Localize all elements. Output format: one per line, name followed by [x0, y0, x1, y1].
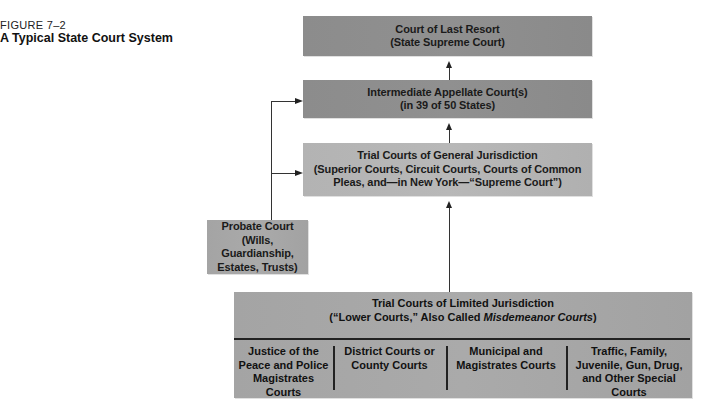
limited-subtitle: (“Lower Courts,” Also Called Misdemeanor… [234, 310, 692, 324]
general-title: Trial Courts of General Jurisdiction [357, 149, 537, 163]
column-line: Peace and Police [234, 359, 333, 373]
arrow-right-icon [295, 170, 303, 176]
column-line: and Other Special [566, 372, 692, 386]
probate-to-general-connector [271, 173, 297, 174]
arrow-up-icon [446, 201, 452, 208]
column-line: Justice of the [234, 345, 333, 359]
connector-limited-to-general [449, 206, 450, 292]
limited-jurisdiction-box: Trial Courts of Limited Jurisdiction (“L… [234, 292, 692, 398]
limited-columns: Justice of the Peace and Police Magistra… [234, 345, 692, 399]
limited-column-justice: Justice of the Peace and Police Magistra… [234, 345, 333, 399]
column-line: County Courts [333, 359, 446, 373]
court-of-last-resort-box: Court of Last Resort (State Supreme Cour… [303, 16, 592, 56]
column-line: Juvenile, Gun, Drug, [566, 359, 692, 373]
arrow-right-icon [295, 98, 303, 104]
column-line: Municipal and [446, 345, 566, 359]
arrow-up-icon [446, 61, 452, 68]
last-resort-subtitle: (State Supreme Court) [390, 36, 505, 50]
column-line: Traffic, Family, [566, 345, 692, 359]
figure-label: FIGURE 7–2 [0, 19, 66, 31]
last-resort-title: Court of Last Resort [395, 23, 499, 37]
general-subtitle-1: (Superior Courts, Circuit Courts, Courts… [314, 163, 582, 177]
intermediate-appellate-box: Intermediate Appellate Court(s) (in 39 o… [303, 80, 592, 118]
appellate-subtitle: (in 39 of 50 States) [400, 99, 495, 113]
probate-to-appellate-connector [271, 101, 297, 102]
appellate-title: Intermediate Appellate Court(s) [367, 86, 527, 100]
probate-title: Probate Court [221, 220, 293, 234]
limited-column-special: Traffic, Family, Juvenile, Gun, Drug, an… [566, 345, 692, 399]
limited-divider [234, 338, 690, 340]
column-line: Courts [566, 386, 692, 400]
connector-general-to-appellate [449, 128, 450, 143]
limited-title: Trial Courts of Limited Jurisdiction [234, 296, 692, 310]
limited-header: Trial Courts of Limited Jurisdiction (“L… [234, 296, 692, 324]
limited-column-district: District Courts or County Courts [333, 345, 446, 399]
arrow-up-icon [446, 123, 452, 130]
probate-vertical-connector [271, 101, 272, 220]
probate-court-box: Probate Court (Wills, Guardianship, Esta… [207, 220, 308, 274]
connector-appellate-to-supreme [449, 66, 450, 80]
probate-subtitle-1: (Wills, Guardianship, [207, 234, 308, 261]
limited-subtitle-prefix: (“Lower Courts,” Also Called [329, 311, 483, 323]
limited-subtitle-suffix: ) [593, 311, 597, 323]
limited-column-municipal: Municipal and Magistrates Courts [446, 345, 566, 399]
probate-subtitle-2: Estates, Trusts) [217, 261, 297, 275]
general-subtitle-2: Pleas, and—in New York—“Supreme Court”) [333, 176, 562, 190]
column-line: Magistrates Courts [234, 372, 333, 399]
column-line: Magistrates Courts [446, 359, 566, 373]
general-jurisdiction-box: Trial Courts of General Jurisdiction (Su… [303, 143, 592, 196]
figure-title: A Typical State Court System [0, 31, 173, 45]
limited-subtitle-italic: Misdemeanor Courts [484, 311, 593, 323]
column-line: District Courts or [333, 345, 446, 359]
